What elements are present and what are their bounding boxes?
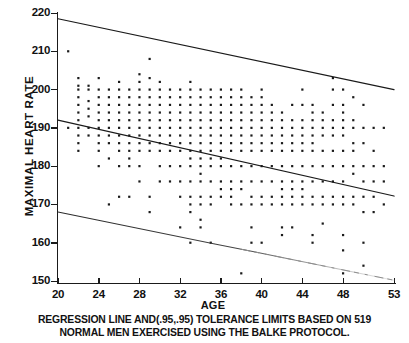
data-point [301, 203, 303, 205]
data-point [98, 150, 100, 152]
data-point [189, 203, 191, 205]
data-point [210, 157, 212, 159]
data-point [250, 142, 252, 144]
data-point [179, 127, 181, 129]
data-point [159, 165, 161, 167]
data-point [322, 150, 324, 152]
data-point [362, 196, 364, 198]
data-point [169, 111, 171, 113]
data-point [240, 142, 242, 144]
data-point [199, 104, 201, 106]
data-point [220, 142, 222, 144]
data-point [199, 226, 201, 228]
data-point [159, 150, 161, 152]
data-point [169, 88, 171, 90]
data-point [220, 88, 222, 90]
data-point [179, 150, 181, 152]
data-point [230, 134, 232, 136]
data-point [352, 96, 354, 98]
data-point [138, 142, 140, 144]
data-point [383, 203, 385, 205]
data-point [199, 196, 201, 198]
data-point [311, 196, 313, 198]
data-point [250, 180, 252, 182]
data-point [98, 119, 100, 121]
data-point [261, 104, 263, 106]
data-point [220, 104, 222, 106]
data-point [250, 226, 252, 228]
data-point [250, 119, 252, 121]
data-point [291, 203, 293, 205]
data-point [199, 88, 201, 90]
data-point [108, 119, 110, 121]
data-point [311, 111, 313, 113]
data-point [77, 134, 79, 136]
data-point [98, 165, 100, 167]
data-point [240, 188, 242, 190]
data-point [169, 165, 171, 167]
data-point [281, 165, 283, 167]
data-point [138, 180, 140, 182]
data-point [118, 127, 120, 129]
data-point [271, 127, 273, 129]
data-point [240, 134, 242, 136]
data-point [138, 127, 140, 129]
data-point [250, 104, 252, 106]
data-point [159, 81, 161, 83]
data-point [322, 134, 324, 136]
data-point [261, 119, 263, 121]
data-point [230, 196, 232, 198]
data-point [210, 134, 212, 136]
data-point [240, 127, 242, 129]
data-point [240, 119, 242, 121]
data-point [128, 165, 130, 167]
data-point [383, 180, 385, 182]
data-point [108, 142, 110, 144]
data-point [159, 180, 161, 182]
data-point [301, 188, 303, 190]
data-point [373, 150, 375, 152]
data-point [210, 104, 212, 106]
data-point [271, 203, 273, 205]
data-point [108, 104, 110, 106]
data-point [199, 180, 201, 182]
data-point [149, 111, 151, 113]
data-point [230, 203, 232, 205]
data-point [98, 104, 100, 106]
data-point [108, 157, 110, 159]
data-point [149, 134, 151, 136]
data-point [210, 142, 212, 144]
data-point [342, 150, 344, 152]
data-point [230, 150, 232, 152]
data-point [230, 165, 232, 167]
data-point [240, 272, 242, 274]
data-point [362, 180, 364, 182]
data-point [291, 134, 293, 136]
data-point [271, 111, 273, 113]
data-point [311, 119, 313, 121]
data-point [230, 180, 232, 182]
data-point [250, 127, 252, 129]
data-point [108, 127, 110, 129]
data-point [118, 150, 120, 152]
data-point [230, 96, 232, 98]
data-point [261, 203, 263, 205]
data-point [301, 180, 303, 182]
data-point [77, 96, 79, 98]
data-point [352, 142, 354, 144]
data-point [108, 96, 110, 98]
data-point [138, 104, 140, 106]
data-point [98, 142, 100, 144]
data-point [98, 88, 100, 90]
data-point [118, 142, 120, 144]
caption-line-1: REGRESSION LINE AND(.95,.95) TOLERANCE L… [0, 314, 409, 327]
data-point [373, 211, 375, 213]
data-point [342, 272, 344, 274]
data-point [230, 119, 232, 121]
data-point [250, 196, 252, 198]
data-point [322, 203, 324, 205]
data-point [149, 127, 151, 129]
data-point [138, 73, 140, 75]
data-point [261, 111, 263, 113]
data-point [169, 142, 171, 144]
